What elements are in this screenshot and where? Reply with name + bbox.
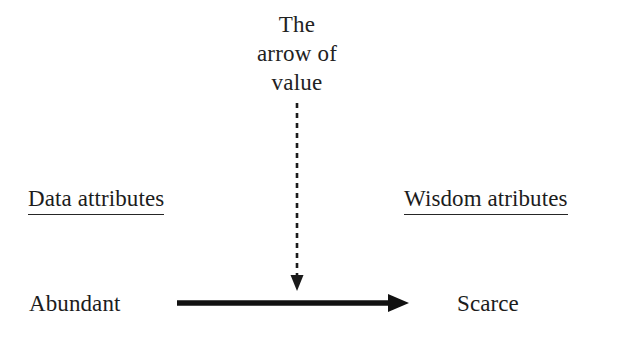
diagram-title-line-3: value [197, 68, 397, 97]
horizontal-arrowhead-icon [388, 294, 409, 312]
arrow-of-value-diagram: The arrow of value Data attributes Wisdo… [0, 0, 617, 340]
right-endpoint-label: Scarce [457, 291, 519, 317]
diagram-title-line-2: arrow of [197, 39, 397, 68]
vertical-arrowhead-icon [291, 275, 304, 291]
left-endpoint-label: Abundant [29, 291, 121, 317]
left-column-heading: Data attributes [28, 186, 164, 215]
horizontal-solid-arrow [177, 294, 409, 312]
right-column-heading: Wisdom atributes [404, 186, 568, 215]
diagram-title-line-1: The [197, 10, 397, 39]
diagram-title: The arrow of value [197, 10, 397, 97]
vertical-dashed-arrow [291, 103, 304, 291]
